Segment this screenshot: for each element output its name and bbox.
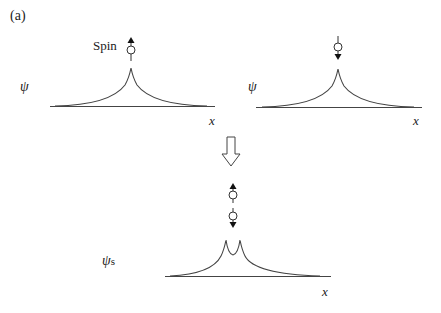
- wavefunction-curve: [262, 69, 414, 107]
- down-arrow-icon: [222, 137, 240, 166]
- y-axis-label: ψ: [20, 79, 29, 94]
- wavefunction-curve: [55, 68, 207, 106]
- y-axis-label: ψ: [248, 79, 257, 94]
- panel-spin-up: Spin ψ x: [20, 37, 215, 128]
- spin-down-icon: [334, 36, 342, 60]
- spin-up-icon: [229, 183, 237, 203]
- spin-down-icon: [229, 208, 237, 228]
- panel-label: (a): [10, 8, 26, 24]
- wavefunction-diagram: (a) Spin ψ x ψ x: [0, 0, 441, 313]
- x-axis-label: x: [412, 113, 419, 128]
- panel-singlet: ψs x: [102, 183, 331, 299]
- x-axis-label: x: [321, 284, 328, 299]
- panel-spin-down: ψ x: [248, 36, 422, 128]
- spin-label: Spin: [93, 38, 117, 53]
- wavefunction-curve: [170, 240, 320, 276]
- spin-up-icon: [127, 37, 135, 61]
- x-axis-label: x: [208, 113, 215, 128]
- y-axis-label: ψs: [102, 253, 115, 268]
